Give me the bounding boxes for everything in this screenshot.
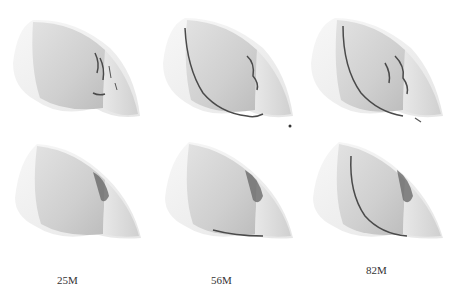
- shell-render-icon: [5, 138, 155, 268]
- panel-top-25m: [5, 8, 155, 138]
- shell-render-icon: [155, 138, 305, 268]
- column-label-82m: 82M: [366, 264, 387, 276]
- column-label-56m: 56M: [211, 274, 232, 286]
- panel-top-56m: [155, 8, 305, 138]
- panel-bottom-25m: [5, 138, 155, 268]
- column-label-25m: 25M: [57, 274, 78, 286]
- shell-render-icon: [155, 8, 305, 138]
- shell-render-icon: [303, 138, 453, 268]
- panel-top-82m: [303, 8, 453, 138]
- panel-bottom-56m: [155, 138, 305, 268]
- panel-bottom-82m: [303, 138, 453, 268]
- shell-render-icon: [303, 8, 453, 138]
- shell-render-icon: [5, 8, 155, 138]
